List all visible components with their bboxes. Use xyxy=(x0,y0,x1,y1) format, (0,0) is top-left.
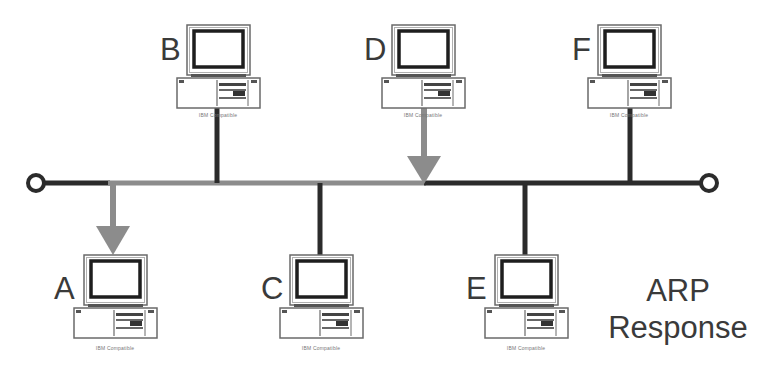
title-line-1: ARP xyxy=(598,272,758,309)
title-line-2: Response xyxy=(598,309,758,346)
computer-a xyxy=(74,255,157,338)
computer-f xyxy=(588,25,671,108)
caption-e: IBM Compatible xyxy=(507,345,545,351)
caption-b: IBM Compatible xyxy=(199,112,237,118)
computer-b xyxy=(177,25,260,108)
caption-c: IBM Compatible xyxy=(302,345,340,351)
bus-terminator-left xyxy=(28,175,44,191)
node-label-b: B xyxy=(160,34,181,65)
computer-c xyxy=(280,255,363,338)
node-label-d: D xyxy=(364,34,386,65)
caption-d: IBM Compatible xyxy=(404,112,442,118)
diagram-title: ARP Response xyxy=(598,272,758,346)
arrow-a-head xyxy=(96,226,130,255)
bus-terminator-right xyxy=(701,175,717,191)
arrow-d-head xyxy=(407,156,441,184)
node-label-e: E xyxy=(466,273,487,304)
node-label-f: F xyxy=(572,34,591,65)
caption-f: IBM Compatible xyxy=(610,112,648,118)
computer-e xyxy=(485,255,568,338)
node-label-a: A xyxy=(54,273,75,304)
node-label-c: C xyxy=(261,273,283,304)
computer-d xyxy=(382,25,465,108)
caption-a: IBM Compatible xyxy=(96,345,134,351)
